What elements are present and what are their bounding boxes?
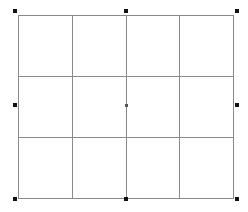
resize-handle-middle-right[interactable] — [235, 103, 239, 107]
resize-handle-bottom-right[interactable] — [235, 197, 239, 201]
resize-handle-middle-left[interactable] — [13, 103, 17, 107]
table-row — [19, 16, 234, 77]
table-cell[interactable] — [19, 138, 73, 199]
table-cell[interactable] — [126, 16, 180, 77]
table-cell[interactable] — [72, 77, 126, 138]
table-cell[interactable] — [72, 138, 126, 199]
table-cell[interactable] — [72, 16, 126, 77]
table-cell[interactable] — [180, 138, 234, 199]
table-cell[interactable] — [19, 77, 73, 138]
table-object[interactable] — [18, 15, 234, 199]
resize-handle-top-center[interactable] — [124, 9, 128, 13]
table-row — [19, 138, 234, 199]
table-row — [19, 77, 234, 138]
table-cell[interactable] — [19, 16, 73, 77]
move-handle-center[interactable] — [125, 104, 128, 107]
resize-handle-bottom-center[interactable] — [124, 197, 128, 201]
resize-handle-top-right[interactable] — [235, 9, 239, 13]
table-cell[interactable] — [126, 77, 180, 138]
table-cell[interactable] — [126, 138, 180, 199]
table-cell[interactable] — [180, 16, 234, 77]
table-cell[interactable] — [180, 77, 234, 138]
resize-handle-top-left[interactable] — [13, 9, 17, 13]
resize-handle-bottom-left[interactable] — [13, 197, 17, 201]
